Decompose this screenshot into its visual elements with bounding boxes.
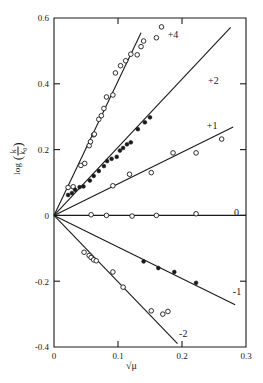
y-axis-title: log (kk₀) — [10, 119, 27, 199]
data-point-filled-circle — [70, 191, 74, 195]
data-point-filled-circle — [129, 140, 133, 144]
data-point-open-circle — [82, 161, 87, 166]
series-0 — [54, 211, 246, 218]
data-point-open-circle — [166, 309, 171, 314]
data-point-filled-circle — [121, 146, 125, 150]
data-point-open-circle — [149, 309, 154, 314]
data-point-filled-circle — [78, 185, 82, 189]
data-point-filled-circle — [92, 174, 96, 178]
chart-figure: 0.60.40.20-0.2-0.400.10.20.3+4+2+10-1-2 … — [0, 0, 263, 383]
paren-open: ( — [10, 156, 25, 161]
data-point-filled-circle — [82, 185, 86, 189]
data-point-filled-circle — [73, 188, 77, 192]
data-point-filled-circle — [143, 120, 147, 124]
scatter-plot-canvas: 0.60.40.20-0.2-0.400.10.20.3+4+2+10-1-2 — [0, 0, 263, 383]
data-point-open-circle — [127, 172, 132, 177]
data-point-open-circle — [118, 63, 123, 68]
data-point-filled-circle — [148, 115, 152, 119]
series-+2 — [54, 27, 231, 215]
data-point-open-circle — [88, 139, 93, 144]
data-point-open-circle — [219, 137, 224, 142]
data-point-filled-circle — [110, 157, 114, 161]
data-point-open-circle — [159, 25, 164, 30]
data-point-open-circle — [171, 151, 176, 156]
data-point-open-circle — [149, 170, 154, 175]
y-axis-tick-label: 0.4 — [38, 79, 50, 89]
series--1 — [54, 215, 235, 304]
data-point-filled-circle — [66, 193, 70, 197]
y-axis-tick-label: 0.2 — [38, 145, 49, 155]
plot-frame — [54, 18, 246, 347]
data-point-open-circle — [135, 53, 140, 58]
data-point-open-circle — [161, 312, 166, 317]
y-axis-tick-label: -0.2 — [35, 277, 49, 287]
x-axis-title: √μ — [0, 360, 263, 371]
series-+1 — [54, 127, 233, 215]
data-point-open-circle — [129, 52, 134, 57]
series-annotation-+4: +4 — [168, 29, 179, 40]
data-point-open-circle — [66, 185, 71, 190]
data-point-filled-circle — [142, 260, 146, 264]
data-point-open-circle — [104, 95, 109, 100]
data-point-open-circle — [89, 212, 94, 217]
data-point-filled-circle — [105, 159, 109, 163]
data-point-open-circle — [113, 71, 118, 76]
y-axis-tick-label: 0 — [45, 211, 50, 221]
series-annotation-+2: +2 — [208, 75, 219, 86]
y-axis-title-log: log — [12, 163, 22, 175]
data-point-open-circle — [82, 250, 87, 255]
data-point-open-circle — [102, 106, 107, 111]
data-point-open-circle — [92, 132, 97, 137]
y-axis-title-denominator: k₀ — [19, 147, 27, 156]
series-annotation--2: -2 — [179, 328, 187, 339]
data-point-open-circle — [111, 270, 116, 275]
data-point-filled-circle — [97, 169, 101, 173]
data-point-open-circle — [111, 93, 116, 98]
series-+4 — [54, 25, 164, 216]
data-point-filled-circle — [118, 149, 122, 153]
data-point-open-circle — [130, 214, 135, 219]
data-point-open-circle — [154, 35, 159, 40]
data-point-filled-circle — [194, 281, 198, 285]
fit-line-+1 — [54, 127, 233, 215]
data-point-open-circle — [123, 58, 128, 63]
series--2 — [54, 215, 178, 343]
data-point-open-circle — [194, 151, 199, 156]
y-axis-tick-label: 0.6 — [38, 13, 50, 23]
y-axis-title-fraction: kk₀ — [10, 147, 27, 156]
data-point-filled-circle — [136, 127, 140, 131]
series-annotation--1: -1 — [233, 286, 241, 297]
data-point-filled-circle — [115, 155, 119, 159]
data-point-open-circle — [194, 211, 199, 216]
data-point-filled-circle — [102, 164, 106, 168]
data-point-open-circle — [121, 285, 126, 290]
data-point-open-circle — [94, 259, 99, 264]
data-point-open-circle — [104, 213, 109, 218]
data-point-filled-circle — [88, 179, 92, 183]
data-point-filled-circle — [172, 270, 176, 274]
fit-line--2 — [54, 215, 178, 343]
data-point-open-circle — [99, 113, 104, 118]
data-point-filled-circle — [156, 266, 160, 270]
data-point-open-circle — [111, 183, 116, 188]
series-annotation-+1: +1 — [207, 120, 218, 131]
y-axis-tick-label: -0.4 — [35, 342, 50, 352]
series-annotation-0: 0 — [234, 207, 239, 218]
paren-close: ) — [10, 142, 25, 147]
data-point-open-circle — [139, 44, 144, 49]
data-point-open-circle — [154, 213, 159, 218]
data-point-filled-circle — [125, 142, 129, 146]
data-point-open-circle — [141, 39, 146, 44]
